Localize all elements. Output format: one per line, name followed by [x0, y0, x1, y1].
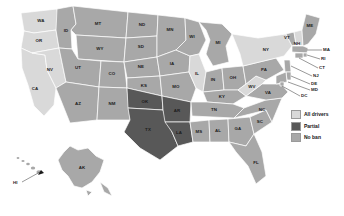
label-LA: LA: [176, 130, 183, 135]
label-NC: NC: [259, 107, 266, 112]
label-PA: PA: [261, 67, 268, 72]
label-IN: IN: [211, 77, 216, 82]
legend-swatch-partial: [291, 122, 301, 131]
label-ND: ND: [139, 22, 146, 27]
label-AL: AL: [215, 128, 221, 133]
legend-item-all-drivers[interactable]: All drivers: [291, 110, 343, 119]
label-MD: MD: [311, 87, 318, 92]
label-VT: VT: [284, 35, 290, 40]
legend-label-no-ban: No ban: [304, 135, 321, 140]
label-WV: WV: [248, 84, 255, 89]
label-TX: TX: [145, 127, 151, 132]
label-RI: RI: [321, 56, 326, 61]
label-WI: WI: [189, 34, 195, 39]
label-NY: NY: [263, 47, 269, 52]
label-NE: NE: [138, 64, 144, 69]
us-choropleth-map: WA OR CA NV ID MT WY UT CO AZ NM ND SD N…: [0, 0, 344, 216]
label-AK: AK: [79, 165, 86, 170]
legend-label-partial: Partial: [304, 124, 319, 129]
label-OK: OK: [142, 99, 150, 104]
leader-RI: [307, 55, 320, 59]
state-NJ[interactable]: [284, 60, 291, 72]
label-ME: ME: [307, 23, 314, 28]
state-RI[interactable]: [303, 53, 307, 57]
leader-MD: [288, 82, 310, 90]
state-MA[interactable]: [292, 46, 308, 53]
label-CO: CO: [109, 71, 116, 76]
state-shapes: [17, 6, 320, 196]
label-IA: IA: [170, 61, 175, 66]
label-MN: MN: [166, 27, 173, 32]
label-UT: UT: [75, 65, 81, 70]
label-NM: NM: [108, 101, 115, 106]
legend-item-no-ban[interactable]: No ban: [291, 133, 343, 142]
leader-CT: [299, 58, 318, 68]
label-MI: MI: [215, 40, 220, 45]
state-DC[interactable]: [280, 82, 284, 86]
label-MT: MT: [95, 21, 102, 26]
legend-swatch-all-drivers: [291, 110, 301, 119]
label-NV: NV: [47, 67, 53, 72]
label-CT: CT: [319, 65, 325, 70]
label-OR: OR: [36, 38, 44, 43]
state-AK[interactable]: [58, 146, 112, 196]
legend-swatch-no-ban: [291, 133, 301, 142]
label-WY: WY: [96, 46, 103, 51]
label-MO: MO: [172, 84, 180, 89]
label-KY: KY: [219, 94, 225, 99]
label-AR: AR: [174, 108, 181, 113]
state-CT[interactable]: [295, 53, 303, 58]
state-ME[interactable]: [302, 14, 320, 46]
leader-DE: [291, 76, 310, 84]
leader-HI-arrow: [22, 172, 40, 182]
label-NJ: NJ: [313, 73, 319, 78]
leader-NJ: [291, 66, 312, 76]
label-HI: HI: [13, 180, 18, 185]
label-SD: SD: [138, 44, 144, 49]
label-IL: IL: [195, 71, 199, 76]
label-TN: TN: [211, 107, 217, 112]
label-MS: MS: [196, 129, 203, 134]
legend-item-partial[interactable]: Partial: [291, 122, 343, 131]
label-NH: NH: [294, 41, 301, 46]
label-WA: WA: [37, 18, 45, 23]
label-OH: OH: [230, 75, 237, 80]
label-AZ: AZ: [75, 101, 81, 106]
label-DC: DC: [301, 93, 308, 98]
label-ID: ID: [64, 28, 69, 33]
label-CA: CA: [32, 86, 39, 91]
map-legend: All drivers Partial No ban: [291, 110, 343, 145]
hawaii-islands[interactable]: [17, 157, 42, 174]
label-MA: MA: [323, 47, 331, 52]
legend-label-all-drivers: All drivers: [304, 112, 328, 117]
label-SC: SC: [257, 119, 264, 124]
map-canvas: WA OR CA NV ID MT WY UT CO AZ NM ND SD N…: [0, 0, 344, 216]
label-DE: DE: [311, 81, 317, 86]
label-VA: VA: [265, 90, 272, 95]
label-KS: KS: [141, 83, 147, 88]
label-FL: FL: [253, 160, 259, 165]
label-GA: GA: [235, 126, 243, 131]
